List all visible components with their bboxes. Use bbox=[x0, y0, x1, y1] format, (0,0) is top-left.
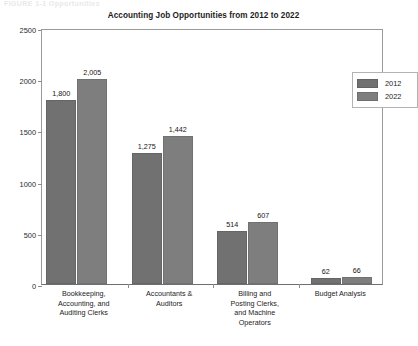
legend-swatch-2022 bbox=[357, 92, 378, 101]
x-axis-group-separator bbox=[299, 284, 300, 288]
bar-value-label-2012-cat2: 514 bbox=[226, 220, 238, 229]
bar-value-label-2012-cat1: 1,275 bbox=[138, 142, 156, 151]
bar-2012-cat1 bbox=[132, 153, 162, 284]
y-tick-label-1500: 1500 bbox=[2, 128, 42, 137]
legend-item-2022: 2022 bbox=[357, 90, 413, 103]
bar-value-label-2012-cat0: 1,800 bbox=[52, 89, 70, 98]
bar-2012-cat2 bbox=[217, 231, 247, 284]
legend-swatch-2012 bbox=[357, 79, 378, 88]
legend-label-2012: 2012 bbox=[385, 79, 401, 88]
chart-legend: 2012 2022 bbox=[352, 72, 418, 108]
legend-item-2012: 2012 bbox=[357, 77, 413, 90]
y-tick-label-500: 500 bbox=[2, 230, 42, 239]
bar-value-label-2022-cat3: 66 bbox=[353, 266, 361, 275]
bar-2022-cat0 bbox=[77, 79, 107, 284]
figure-caption: FIGURE 1-1 Opportunities bbox=[4, 0, 100, 7]
bar-value-label-2022-cat0: 2,005 bbox=[83, 68, 101, 77]
legend-label-2022: 2022 bbox=[385, 92, 401, 101]
x-axis-group-separator bbox=[128, 284, 129, 288]
x-axis-label-cat3: Budget Analysis bbox=[291, 289, 391, 299]
plot-area: Thousand 05001000150020002500 1,8002,005… bbox=[41, 29, 383, 285]
bar-2022-cat2 bbox=[248, 222, 278, 284]
x-axis-group-separator bbox=[213, 284, 214, 288]
chart-title: Accounting Job Opportunities from 2012 t… bbox=[0, 11, 407, 20]
bars-layer: 1,8002,0051,2751,4425146076266 bbox=[42, 30, 382, 284]
bar-value-label-2022-cat1: 1,442 bbox=[169, 125, 187, 134]
bar-2012-cat0 bbox=[46, 100, 76, 284]
y-tick-label-2500: 2500 bbox=[2, 26, 42, 35]
bar-2012-cat3 bbox=[311, 278, 341, 284]
bar-value-label-2012-cat3: 62 bbox=[322, 267, 330, 276]
y-tick-label-1000: 1000 bbox=[2, 179, 42, 188]
bar-2022-cat3 bbox=[342, 277, 372, 284]
y-tick-label-2000: 2000 bbox=[2, 77, 42, 86]
bar-value-label-2022-cat2: 607 bbox=[257, 211, 269, 220]
y-tick-mark-0 bbox=[38, 286, 42, 287]
bar-2022-cat1 bbox=[163, 136, 193, 284]
